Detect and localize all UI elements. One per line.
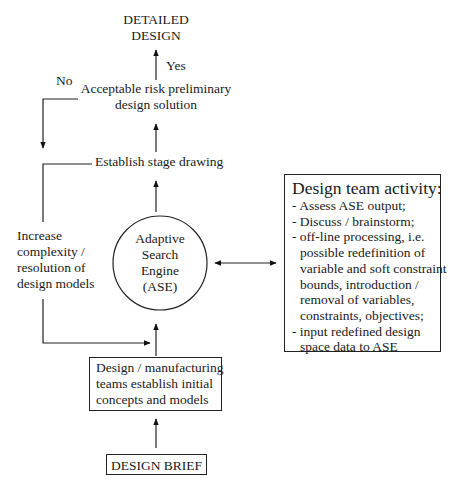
ase-line: Search [120,247,200,263]
arrow-complexity-to-ase [43,299,150,343]
increase-complexity-line: resolution of [17,260,95,276]
detailed-design-line: DESIGN [106,28,206,44]
activity-item-text: constraints, objectives; [292,308,440,324]
yes-label: Yes [166,58,186,74]
activity-item-text: - input redefined design [292,324,421,339]
design-brief-box: DESIGN BRIEF [106,454,207,475]
activity-item: - off-line processing, i.e. possible red… [292,229,440,323]
activity-item: - Assess ASE output; [292,198,440,214]
design-brief-label: DESIGN BRIEF [111,458,202,473]
detailed-design-line: DETAILED [106,12,206,28]
activity-item: - input redefined design space data to A… [292,324,440,355]
teams-establish-line: concepts and models [96,392,221,408]
activity-item-text: variable and soft constraint [292,261,440,277]
arrow-no-loop [43,99,78,148]
increase-complexity-line: complexity / [17,244,95,260]
activity-title: Design team activity: [292,178,440,198]
acceptable-risk-line: design solution [78,97,234,113]
activity-item-text: - Discuss / brainstorm; [292,214,415,229]
line-establish-left [43,164,92,222]
activity-item: - Discuss / brainstorm; [292,214,440,230]
ase-line: Engine [120,263,200,279]
no-label: No [56,73,73,89]
detailed-design-label: DETAILED DESIGN [106,12,206,44]
activity-item-text: bounds, introduction / [292,277,440,293]
design-team-activity-box: Design team activity: - Assess ASE outpu… [284,174,441,352]
teams-establish-line: teams establish initial [96,376,221,392]
activity-item-text: space data to ASE [292,339,440,355]
increase-complexity-node: Increase complexity / resolution of desi… [17,228,95,292]
increase-complexity-line: Increase [17,228,95,244]
increase-complexity-line: design models [17,276,95,292]
acceptable-risk-line: Acceptable risk preliminary [78,81,234,97]
activity-item-text: - Assess ASE output; [292,198,406,213]
activity-item-text: removal of variables, [292,292,440,308]
ase-line: (ASE) [120,279,200,295]
activity-item-text: - off-line processing, i.e. [292,229,424,244]
establish-stage-node: Establish stage drawing [95,154,223,170]
ase-line: Adaptive [120,231,200,247]
teams-establish-line: Design / manufacturing [96,360,221,376]
teams-establish-box: Design / manufacturing teams establish i… [89,357,222,411]
activity-item-text: possible redefinition of [292,245,440,261]
ase-node: Adaptive Search Engine (ASE) [120,231,200,295]
acceptable-risk-node: Acceptable risk preliminary design solut… [78,81,234,113]
activity-list: - Assess ASE output; - Discuss / brainst… [292,198,440,355]
